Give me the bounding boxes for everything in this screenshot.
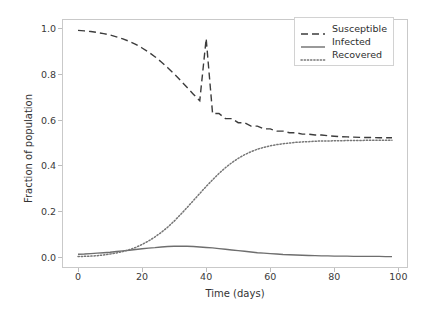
series-line-infected (78, 246, 392, 256)
y-tick-mark (58, 28, 62, 29)
legend-label: Recovered (332, 49, 382, 60)
y-tick-mark (58, 120, 62, 121)
y-tick-mark (58, 74, 62, 75)
legend-label: Infected (332, 36, 371, 47)
legend-item[interactable]: Susceptible (300, 22, 387, 35)
y-tick-label: 0.8 (41, 68, 56, 79)
legend-label: Susceptible (332, 23, 387, 34)
y-tick-mark (58, 211, 62, 212)
x-axis-label: Time (days) (62, 288, 408, 299)
legend-item[interactable]: Infected (300, 35, 387, 48)
legend-line-sample-dashed (300, 24, 326, 34)
y-tick-label: 1.0 (41, 23, 56, 34)
figure-canvas: 0.00.20.40.60.81.0 020406080100 Time (da… (0, 0, 426, 315)
series-line-recovered (78, 140, 392, 256)
y-tick-mark (58, 257, 62, 258)
x-tick-label: 100 (389, 271, 407, 282)
chart-legend: SusceptibleInfectedRecovered (294, 17, 394, 66)
x-tick-label: 60 (264, 271, 276, 282)
y-tick-label: 0.6 (41, 114, 56, 125)
y-tick-mark (58, 165, 62, 166)
x-tick-label: 20 (136, 271, 148, 282)
legend-item[interactable]: Recovered (300, 48, 387, 61)
legend-line-sample-dotted (300, 50, 326, 60)
x-tick-label: 0 (75, 271, 81, 282)
x-tick-label: 40 (200, 271, 212, 282)
y-axis-label: Fraction of population (23, 74, 34, 224)
x-tick-label: 80 (328, 271, 340, 282)
y-tick-label: 0.0 (41, 251, 56, 262)
y-tick-label: 0.4 (41, 160, 56, 171)
legend-line-sample-solid (300, 37, 326, 47)
y-tick-label: 0.2 (41, 205, 56, 216)
